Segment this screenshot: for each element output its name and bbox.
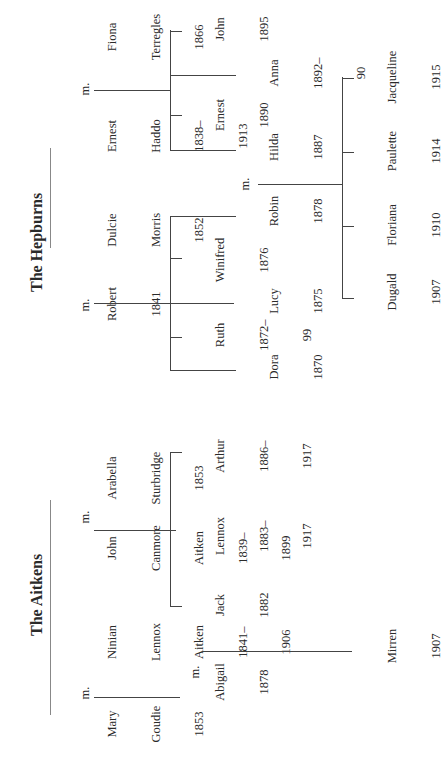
marriage-marker: m. xyxy=(78,290,93,320)
marriage-marker: m. xyxy=(78,678,93,708)
descent-line xyxy=(258,184,342,185)
title-underline-aitkens xyxy=(50,500,51,715)
person-lennox: Lennox 1883– 1917 xyxy=(184,506,329,566)
person-jack: Jack 1882 xyxy=(184,580,286,630)
child-tick-winifred xyxy=(170,258,182,259)
child-tick-ernest xyxy=(170,115,182,116)
person-floriana: Floriana 1910 xyxy=(356,194,445,256)
child-tick-robin xyxy=(170,216,236,217)
person-jacqueline: Jacqueline 1915 xyxy=(356,42,445,112)
sibling-bar xyxy=(170,30,171,150)
descent-line xyxy=(94,90,170,91)
marriage-marker: m. xyxy=(188,660,203,684)
person-mirren: Mirren 1907 xyxy=(356,616,445,676)
person-paulette: Paulette 1914 xyxy=(356,120,445,182)
marriage-marker: m. xyxy=(78,74,93,104)
sibling-bar xyxy=(342,77,343,299)
child-tick-anna xyxy=(170,75,236,76)
descent-line xyxy=(94,697,180,698)
person-john: John 1895 xyxy=(184,4,286,54)
family-title-aitkens: The Aitkens xyxy=(28,554,46,636)
family-title-hepburns: The Hepburns xyxy=(28,193,46,292)
child-tick-arthur xyxy=(170,452,182,453)
sibling-bar xyxy=(170,452,171,607)
child-tick-john xyxy=(170,31,182,32)
child-tick-hilda xyxy=(170,150,236,151)
child-tick-dugald xyxy=(342,298,354,299)
child-tick-dora xyxy=(170,370,236,371)
person-winifred: Winifred 1876 xyxy=(184,230,286,290)
title-underline-hepburns xyxy=(50,148,51,248)
person-arthur: Arthur 1886– 1917 xyxy=(184,426,329,486)
child-tick-floriana xyxy=(342,226,354,227)
marriage-marker: m. xyxy=(238,172,253,196)
person-dugald: Dugald 1907 xyxy=(356,262,445,322)
sibling-bar xyxy=(170,216,171,371)
child-tick-ruth xyxy=(170,337,182,338)
descent-line xyxy=(202,651,352,652)
descent-line xyxy=(94,303,234,304)
person-robin: Robin 1878 xyxy=(238,186,340,236)
descent-line xyxy=(94,530,176,531)
child-tick-paulette xyxy=(342,152,354,153)
child-tick-jack xyxy=(170,606,182,607)
child-tick-jacqueline xyxy=(342,78,354,79)
